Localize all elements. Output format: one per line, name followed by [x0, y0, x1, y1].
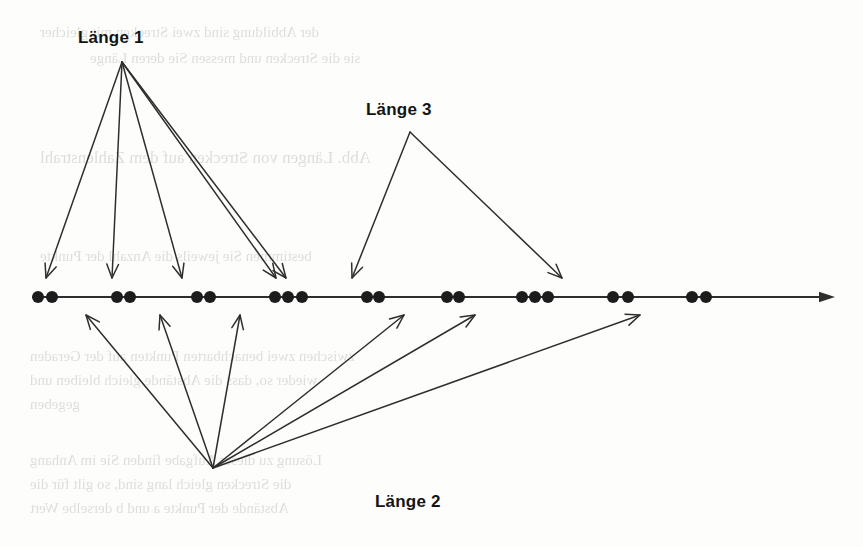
annotation-arrow — [213, 315, 243, 468]
number-line-point — [111, 291, 123, 303]
number-line-point — [607, 291, 619, 303]
number-line-point — [441, 291, 453, 303]
annotation-arrow — [107, 62, 122, 278]
number-line-point — [453, 291, 465, 303]
label-laenge-2: Länge 2 — [375, 492, 441, 512]
number-line-point — [373, 291, 385, 303]
number-line-point — [622, 291, 634, 303]
number-line-point — [529, 291, 541, 303]
figure-canvas: der Abbildung sind zwei Strecken mit gle… — [0, 0, 863, 547]
label-laenge-3: Länge 3 — [366, 100, 432, 120]
annotation-arrow — [122, 62, 276, 278]
annotation-arrow — [352, 132, 410, 278]
axis-layer — [33, 292, 835, 302]
number-line-point — [542, 291, 554, 303]
number-line-point — [204, 291, 216, 303]
number-line-point — [361, 291, 373, 303]
number-line-point — [269, 291, 281, 303]
number-line-point — [700, 291, 712, 303]
number-line-point — [191, 291, 203, 303]
number-line-diagram — [0, 0, 863, 547]
annotation-arrow — [213, 314, 640, 468]
number-line-point — [516, 291, 528, 303]
annotation-arrow — [410, 132, 562, 278]
number-line-point — [296, 291, 308, 303]
annotation-arrow — [122, 62, 286, 278]
annotation-arrow — [45, 62, 122, 278]
annotation-arrow — [159, 315, 213, 468]
dots-layer — [32, 291, 712, 303]
annotation-arrow — [213, 315, 475, 468]
number-line-point — [686, 291, 698, 303]
axis-arrowhead-icon — [819, 292, 835, 302]
number-line-point — [46, 291, 58, 303]
annotation-arrow — [122, 62, 184, 278]
number-line-point — [32, 291, 44, 303]
annotation-arrow — [86, 315, 213, 468]
number-line-point — [282, 291, 294, 303]
arrowhead-icon — [460, 315, 475, 327]
number-line-point — [124, 291, 136, 303]
annotation-arrow — [213, 315, 404, 468]
label-laenge-1: Länge 1 — [78, 28, 144, 48]
arrows-layer — [45, 62, 640, 468]
